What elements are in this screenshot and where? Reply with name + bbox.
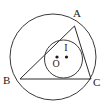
triangle-abc (20, 26, 91, 79)
geometry-figure: A B C I O (0, 0, 106, 111)
vertex-label-b: B (3, 74, 10, 86)
circumcircle (10, 14, 96, 100)
incenter-label: I (64, 42, 67, 53)
vertex-label-c: C (93, 76, 100, 88)
incenter-dot (65, 55, 68, 58)
circumcenter-label: O (52, 58, 59, 69)
vertex-label-a: A (73, 7, 81, 19)
geometry-canvas: A B C I O (0, 0, 106, 111)
